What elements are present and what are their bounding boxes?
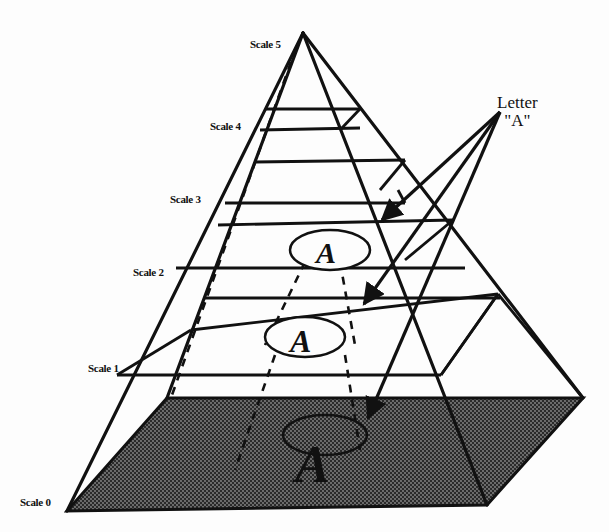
- scale-3-label: Scale 3: [170, 193, 201, 205]
- svg-text:A: A: [292, 436, 330, 493]
- svg-text:A: A: [288, 323, 311, 359]
- scale-0-label: Scale 0: [20, 496, 51, 508]
- letter-a-callout: Letter "A": [497, 94, 538, 130]
- scale-2-label: Scale 2: [133, 266, 164, 278]
- callout-line-2: "A": [497, 112, 538, 130]
- scale-4-label: Scale 4: [210, 120, 241, 132]
- image-pyramid-diagram: A A A Scale 5 Scale 4 Scale 3 Scale 2 Sc…: [0, 0, 609, 532]
- svg-text:A: A: [314, 236, 336, 269]
- scale-1-label: Scale 1: [88, 362, 119, 374]
- scale-5-label: Scale 5: [250, 38, 281, 50]
- pyramid-drawing: A A A: [0, 0, 609, 532]
- callout-line-1: Letter: [497, 94, 538, 112]
